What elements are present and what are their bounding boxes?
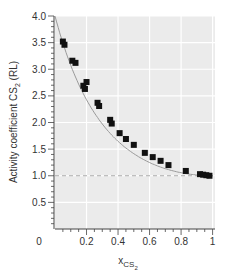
x-tick-label: 0.6 — [143, 236, 157, 247]
data-point — [72, 60, 78, 66]
y-axis-label: Activity coefficient CS2 (RL) — [8, 61, 21, 183]
x-tick-label: 1 — [210, 236, 216, 247]
data-point — [142, 150, 148, 156]
y-tick-label: 1.5 — [32, 144, 46, 155]
data-point — [131, 142, 137, 148]
data-point — [150, 154, 156, 160]
y-tick-label: 3.5 — [32, 37, 46, 48]
y-tick-label: 1.0 — [32, 170, 46, 181]
y-tick-label: 0.5 — [32, 197, 46, 208]
x-axis-label: xCS2 — [118, 255, 138, 271]
y-tick-label: 4.0 — [32, 11, 46, 22]
x-tick-label: 0.4 — [111, 236, 125, 247]
x-tick-label: 0.8 — [174, 236, 188, 247]
y-tick-label: 3.0 — [32, 64, 46, 75]
data-point — [206, 173, 212, 179]
data-point — [61, 42, 67, 48]
data-point — [158, 158, 164, 164]
data-point — [165, 162, 171, 168]
data-point — [84, 79, 90, 85]
x-tick-label: 0 — [36, 236, 42, 247]
data-point — [109, 121, 115, 127]
data-point — [117, 130, 123, 136]
activity-coefficient-chart: 0.51.01.52.02.53.03.54.0 00.20.40.60.81 … — [0, 0, 227, 276]
y-tick-label: 2.5 — [32, 90, 46, 101]
x-tick-label: 0.2 — [80, 236, 94, 247]
y-tick-label: 2.0 — [32, 117, 46, 128]
data-point — [82, 86, 88, 92]
x-axis: 00.20.40.60.81 — [36, 229, 216, 247]
y-axis: 0.51.01.52.02.53.03.54.0 — [32, 11, 54, 230]
data-point — [96, 103, 102, 109]
data-point — [183, 168, 189, 174]
data-point — [123, 136, 129, 142]
